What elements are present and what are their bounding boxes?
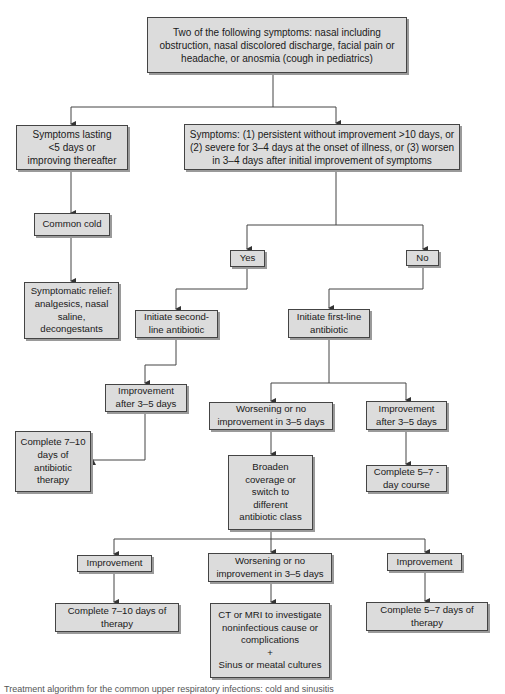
- complete-7-10-therapy-box: Complete 7–10 days of therapy: [55, 603, 179, 632]
- first-line-antibiotic-text: Initiate first-line antibiotic: [292, 311, 366, 336]
- no-text: No: [416, 252, 428, 265]
- common-cold-text: Common cold: [42, 218, 101, 231]
- ct-mri-text: CT or MRI to investigate noninfectious c…: [215, 609, 325, 647]
- ct-mri-box: CT or MRI to investigate noninfectious c…: [210, 603, 330, 678]
- persistent-symptoms-box: Symptoms: (1) persistent without improve…: [184, 124, 460, 170]
- worsening-first-line-text: Worsening or no improvement in 3–5 days: [213, 403, 329, 428]
- complete-7-10-antibiotic-text: Complete 7–10 days of antibiotic therapy: [19, 436, 87, 486]
- improvement-second-line-text: Improvement after 3–5 days: [109, 385, 183, 410]
- improvement-bottom-right-box: Improvement: [387, 553, 462, 571]
- complete-7-10-antibiotic-box: Complete 7–10 days of antibiotic therapy: [15, 431, 91, 492]
- improvement-second-line-box: Improvement after 3–5 days: [105, 384, 187, 412]
- worsening-first-line-box: Worsening or no improvement in 3–5 days: [209, 402, 333, 430]
- yes-text: Yes: [240, 252, 256, 265]
- first-line-antibiotic-box: Initiate first-line antibiotic: [288, 309, 370, 338]
- root-symptoms-box: Two of the following symptoms: nasal inc…: [147, 17, 407, 73]
- root-symptoms-text: Two of the following symptoms: nasal inc…: [156, 26, 398, 65]
- complete-5-7-therapy-text: Complete 5–7 days of therapy: [377, 604, 477, 629]
- improvement-bottom-left-box: Improvement: [77, 555, 152, 572]
- complete-5-7-course-box: Complete 5–7 -day course: [366, 465, 447, 492]
- improvement-bottom-left-text: Improvement: [87, 557, 143, 570]
- worsening-bottom-text: Worsening or no improvement in 3–5 days: [212, 555, 328, 580]
- short-symptoms-text: Symptoms lasting <5 days or improving th…: [27, 128, 117, 167]
- persistent-symptoms-text: Symptoms: (1) persistent without improve…: [189, 128, 455, 167]
- second-line-antibiotic-text: Initiate second-line antibiotic: [139, 311, 214, 336]
- improvement-first-line-box: Improvement after 3–5 days: [366, 401, 447, 430]
- worsening-bottom-box: Worsening or no improvement in 3–5 days: [208, 553, 332, 582]
- improvement-first-line-text: Improvement after 3–5 days: [370, 403, 443, 428]
- complete-5-7-course-text: Complete 5–7 -day course: [370, 466, 443, 491]
- plus-text: +: [267, 647, 273, 660]
- cultures-text: Sinus or meatal cultures: [219, 659, 322, 672]
- symptomatic-relief-box: Symptomatic relief: analgesics, nasal sa…: [24, 282, 119, 339]
- broaden-coverage-text: Broaden coverage or switch to different …: [237, 461, 304, 524]
- short-symptoms-box: Symptoms lasting <5 days or improving th…: [16, 125, 128, 170]
- improvement-bottom-right-text: Improvement: [397, 556, 453, 569]
- symptomatic-relief-text: Symptomatic relief: analgesics, nasal sa…: [28, 285, 115, 335]
- complete-7-10-therapy-text: Complete 7–10 days of therapy: [66, 605, 168, 630]
- no-box: No: [406, 250, 439, 266]
- yes-box: Yes: [230, 250, 265, 267]
- second-line-antibiotic-box: Initiate second-line antibiotic: [135, 310, 218, 338]
- common-cold-box: Common cold: [34, 213, 110, 236]
- broaden-coverage-box: Broaden coverage or switch to different …: [228, 455, 313, 530]
- figure-caption: Treatment algorithm for the common upper…: [4, 684, 334, 694]
- complete-5-7-therapy-box: Complete 5–7 days of therapy: [366, 602, 488, 631]
